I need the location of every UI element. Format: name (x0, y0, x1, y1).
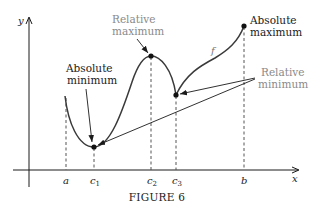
absolute-maximum-point (241, 23, 246, 28)
annotation-absolute-maximum-line2: maximum (250, 26, 302, 38)
tick-c2: c2 (147, 175, 157, 188)
function-label: f (210, 45, 217, 56)
tick-c1: c1 (90, 175, 100, 188)
tick-a: a (63, 175, 69, 186)
tick-c3: c3 (172, 175, 182, 188)
tick-labels: a c1 c2 c3 b (63, 175, 247, 188)
axes: y x (13, 15, 298, 187)
extrema-points (91, 23, 246, 149)
annotation-relative-minimum-line2: minimum (258, 78, 308, 90)
arrow-absolute-minimum (86, 89, 92, 142)
figure-caption: FIGURE 6 (129, 191, 186, 203)
extrema-figure: y x f Absolute minimum (0, 0, 314, 204)
annotation-relative-maximum: Relative maximum (112, 13, 164, 53)
absolute-minimum-point (91, 144, 96, 149)
tick-b: b (241, 175, 247, 186)
annotation-relative-maximum-line1: Relative (112, 13, 155, 25)
arrow-relative-maximum (137, 39, 148, 53)
relative-maximum-point (148, 53, 153, 58)
annotation-absolute-minimum: Absolute minimum (65, 62, 117, 142)
y-axis-label: y (17, 15, 24, 26)
annotation-absolute-maximum-line1: Absolute (249, 14, 297, 26)
annotation-relative-maximum-line2: maximum (112, 25, 164, 37)
annotation-relative-minimum-line1: Relative (261, 66, 304, 78)
arrow-relative-minimum-c3 (180, 78, 255, 94)
annotation-absolute-minimum-line1: Absolute (65, 62, 113, 74)
annotation-relative-minimum: Relative minimum (98, 66, 308, 145)
x-axis-label: x (292, 173, 298, 184)
relative-minimum-point (173, 92, 178, 97)
annotation-absolute-maximum: Absolute maximum (249, 14, 302, 38)
annotation-absolute-minimum-line2: minimum (67, 74, 117, 86)
